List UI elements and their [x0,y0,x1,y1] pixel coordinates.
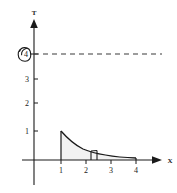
x-axis-label: X [167,157,172,165]
y-tick-label-4: 4 [24,50,28,59]
y-axis-label: T [32,9,37,17]
x-tick-label-1: 1 [59,166,63,175]
y-tick-label-3: 3 [25,75,29,84]
y-tick-label-1: 1 [25,127,29,136]
y-axis-arrow-icon [30,19,38,28]
plot-canvas: 1 2 3 4 1 2 3 4 T X [0,0,177,193]
x-tick-label-2: 2 [84,166,88,175]
area-under-curve [61,131,136,160]
riemann-strip-top-edge [91,151,97,152]
x-axis-arrow-icon [152,156,162,164]
x-tick-label-3: 3 [109,166,113,175]
y-tick-label-2: 2 [25,99,29,108]
x-tick-label-4: 4 [134,166,138,175]
figure-container: 1 2 3 4 1 2 3 4 T X [0,0,177,193]
